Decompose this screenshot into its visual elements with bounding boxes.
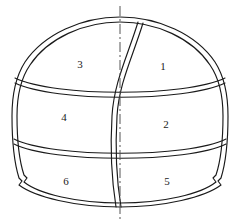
zone-label-2: 2 bbox=[163, 119, 169, 130]
tunnel-cross-section-figure bbox=[0, 0, 240, 224]
zone-label-4: 4 bbox=[61, 112, 67, 123]
diagram-stage: 1 2 3 4 5 6 bbox=[0, 0, 240, 224]
zone-label-5: 5 bbox=[164, 176, 170, 187]
zone-label-6: 6 bbox=[63, 176, 69, 187]
zone-label-1: 1 bbox=[160, 61, 166, 72]
zone-label-3: 3 bbox=[77, 59, 83, 70]
